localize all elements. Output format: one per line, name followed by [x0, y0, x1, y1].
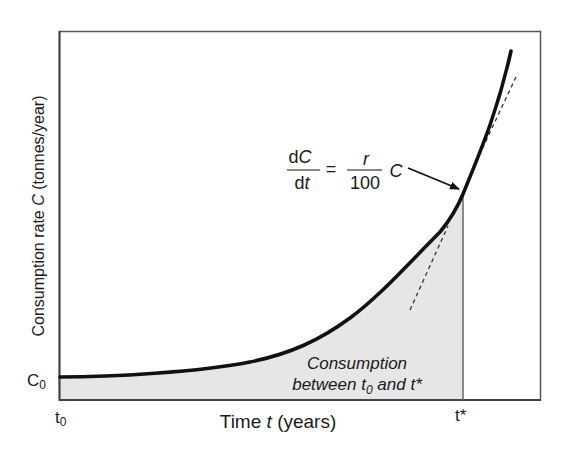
c0-tick-label: C0 — [27, 371, 46, 392]
chart-figure: Consumption rate C (tonnes/year) C0 t0 t… — [0, 0, 572, 454]
svg-text:r: r — [363, 149, 370, 169]
shaded-area-label-line1: Consumption — [307, 354, 407, 373]
tstar-tick-label: t* — [455, 406, 467, 425]
svg-text:100: 100 — [350, 173, 380, 193]
y-axis-label: Consumption rate C (tonnes/year) — [30, 95, 47, 336]
t0-tick-label: t0 — [55, 408, 67, 429]
svg-text:dC: dC — [288, 147, 312, 167]
svg-text:C: C — [390, 161, 404, 181]
svg-text:=: = — [326, 159, 337, 179]
growth-equation: dC dt = r 100 C — [287, 147, 404, 193]
x-axis-label: Time t (years) — [220, 411, 337, 432]
shaded-area-label-line2: between t0 and t* — [292, 375, 423, 397]
equation-arrow — [408, 168, 459, 189]
svg-text:dt: dt — [294, 173, 310, 193]
plot-frame — [60, 32, 541, 401]
